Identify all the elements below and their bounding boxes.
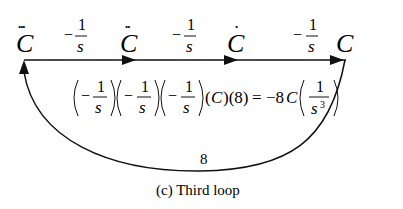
svg-text:C: C	[120, 29, 138, 58]
branch-gain-3: − 1 s	[293, 16, 318, 56]
svg-text:C: C	[16, 29, 34, 58]
node-c-triple-dot: C •••	[16, 22, 34, 58]
branch-gain-1: − 1 s	[64, 16, 87, 56]
svg-text:1: 1	[185, 78, 193, 95]
branch-gain-2: − 1 s	[172, 16, 196, 56]
loop-gain-equation: − 1 s − 1 s − 1 s ( C )(8) = −8 C 1 s 3	[74, 78, 338, 118]
figure-caption: (c) Third loop	[156, 182, 240, 199]
signal-flow-graph: C ••• C •• C • C − 1 s − 1 s − 1 s − 1 s	[0, 0, 403, 209]
svg-text:•••: •••	[18, 22, 25, 32]
svg-text:s: s	[311, 99, 318, 118]
svg-text:C: C	[211, 88, 223, 107]
svg-text:=: =	[252, 88, 262, 107]
svg-text:3: 3	[320, 99, 325, 110]
svg-text:−: −	[64, 26, 73, 43]
svg-text:•: •	[235, 22, 238, 32]
svg-text:−: −	[293, 26, 302, 43]
svg-text:s: s	[183, 98, 190, 117]
svg-text:1: 1	[141, 78, 149, 95]
arrowhead-icon	[19, 60, 29, 74]
svg-text:−: −	[168, 87, 177, 104]
svg-text:s: s	[139, 98, 146, 117]
svg-text:1: 1	[316, 78, 324, 95]
svg-text:s: s	[308, 37, 315, 56]
svg-text:1: 1	[78, 16, 86, 33]
svg-text:1: 1	[309, 16, 317, 33]
svg-text:s: s	[95, 98, 102, 117]
node-c: C	[336, 29, 354, 58]
svg-text:C: C	[227, 29, 245, 58]
svg-text:C: C	[286, 88, 298, 107]
node-c-double-dot: C ••	[120, 22, 138, 58]
svg-text:1: 1	[97, 78, 105, 95]
svg-text:−: −	[124, 87, 133, 104]
node-c-dot: C •	[227, 22, 245, 58]
svg-text:−8: −8	[266, 88, 284, 107]
svg-text:−: −	[81, 87, 90, 104]
svg-text:s: s	[77, 37, 84, 56]
svg-text:)(8): )(8)	[223, 88, 248, 107]
svg-text:−: −	[172, 26, 181, 43]
feedback-gain-label: 8	[200, 151, 208, 167]
svg-text:C: C	[336, 29, 354, 58]
svg-text:1: 1	[187, 16, 195, 33]
svg-text:s: s	[186, 37, 193, 56]
